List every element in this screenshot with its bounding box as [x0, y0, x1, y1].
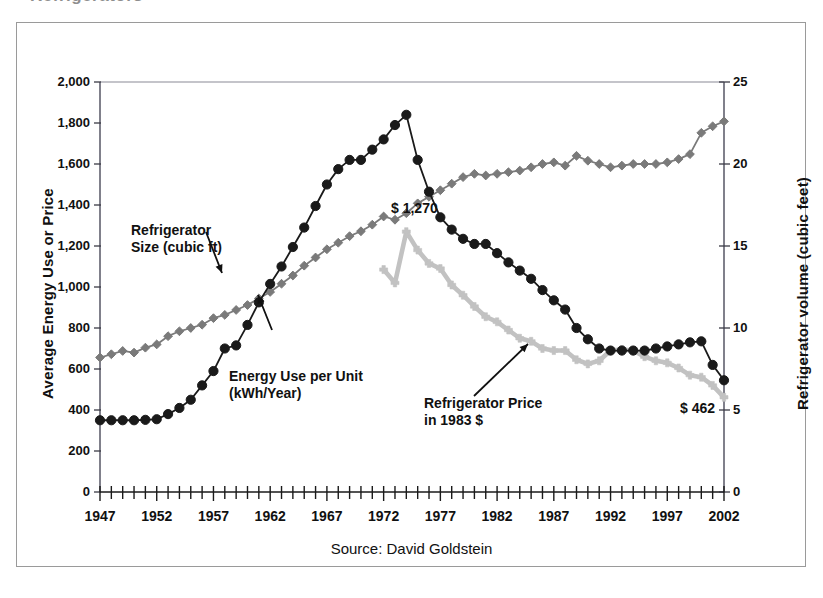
arrow-price — [474, 344, 528, 396]
data-point — [311, 201, 320, 210]
data-point — [243, 301, 252, 310]
data-point — [379, 135, 388, 144]
data-point — [708, 360, 717, 369]
y-axis-right-title: Refrigerator volume (cubic feet) — [794, 129, 811, 459]
chart-content — [94, 82, 730, 501]
data-point — [141, 343, 150, 352]
series-1 — [95, 110, 728, 425]
data-point — [583, 156, 592, 165]
data-point — [107, 350, 116, 359]
chart-page: Refrigerators Average Energy Use or Pric… — [0, 0, 823, 598]
data-point — [209, 366, 218, 375]
annotation-price-line1: Refrigerator Price — [424, 395, 542, 411]
data-point — [198, 320, 207, 329]
data-point — [470, 169, 479, 178]
data-point — [118, 416, 127, 425]
x-tick-label: 1982 — [467, 508, 527, 524]
data-point — [492, 249, 501, 258]
data-point — [209, 314, 218, 323]
x-tick-label: 1967 — [297, 508, 357, 524]
data-point — [629, 346, 638, 355]
data-point — [629, 160, 638, 169]
y-tick-label-left: 1,600 — [30, 156, 90, 171]
data-point — [663, 158, 672, 167]
data-point — [686, 150, 695, 159]
y-tick-label-left: 800 — [30, 320, 90, 335]
annotation-price-line2: in 1983 $ — [424, 412, 483, 428]
y-tick-label-right: 15 — [733, 238, 773, 253]
data-point — [606, 346, 615, 355]
data-point — [561, 305, 570, 314]
data-point — [334, 238, 343, 247]
data-point — [447, 225, 456, 234]
y-tick-label-left: 2,000 — [30, 74, 90, 89]
series-line — [384, 232, 724, 398]
data-point — [651, 344, 660, 353]
x-tick-label: 1952 — [127, 508, 187, 524]
data-point — [527, 274, 536, 283]
y-tick-label-right: 20 — [733, 156, 773, 171]
data-point — [493, 169, 502, 178]
data-point — [719, 376, 728, 385]
data-point — [481, 239, 490, 248]
data-point — [595, 160, 604, 169]
annotation-refrigerator-size: Refrigerator Size (cubic ft) — [131, 222, 222, 256]
y-tick-label-right: 25 — [733, 74, 773, 89]
data-point — [515, 166, 524, 175]
annotation-energy-line1: Energy Use per Unit — [229, 368, 363, 384]
data-point — [368, 145, 377, 154]
x-tick-label: 1987 — [524, 508, 584, 524]
data-point — [232, 306, 241, 315]
data-point — [458, 234, 467, 243]
data-point — [504, 258, 513, 267]
data-point — [232, 341, 241, 350]
data-point — [527, 163, 536, 172]
data-point — [198, 381, 207, 390]
value-label-price-end: $ 462 — [680, 400, 715, 416]
data-point — [390, 120, 399, 129]
annotation-energy-line2: (kWh/Year) — [229, 385, 301, 401]
y-tick-label-left: 200 — [30, 443, 90, 458]
data-point — [424, 187, 433, 196]
y-tick-label-left: 1,800 — [30, 115, 90, 130]
data-point — [266, 279, 275, 288]
data-point — [720, 117, 729, 126]
data-point — [470, 239, 479, 248]
x-tick-label: 2002 — [694, 508, 754, 524]
data-point — [515, 266, 524, 275]
data-point — [674, 340, 683, 349]
data-point — [118, 347, 127, 356]
annotation-size-line2: Size (cubic ft) — [131, 239, 222, 255]
y-tick-label-left: 600 — [30, 361, 90, 376]
data-point — [606, 163, 615, 172]
data-point — [572, 323, 581, 332]
data-point — [163, 410, 172, 419]
data-point — [538, 160, 547, 169]
data-point — [697, 128, 706, 137]
data-point — [402, 110, 411, 119]
data-point — [175, 403, 184, 412]
data-point — [674, 155, 683, 164]
x-tick-label: 1997 — [637, 508, 697, 524]
x-tick-label: 1972 — [354, 508, 414, 524]
value-label-price-peak: $ 1,270 — [391, 200, 438, 216]
data-point — [220, 344, 229, 353]
data-point — [334, 165, 343, 174]
data-point — [152, 415, 161, 424]
data-point — [129, 416, 138, 425]
y-tick-label-left: 1,000 — [30, 279, 90, 294]
data-point — [356, 155, 365, 164]
data-point — [583, 335, 592, 344]
data-point — [708, 122, 717, 131]
data-point — [617, 346, 626, 355]
data-point — [391, 215, 400, 224]
data-point — [345, 232, 354, 241]
source-note: Source: David Goldstein — [0, 540, 823, 557]
data-point — [640, 160, 649, 169]
x-tick-label: 1962 — [240, 508, 300, 524]
data-point — [685, 338, 694, 347]
x-tick-label: 1947 — [70, 508, 130, 524]
data-point — [640, 346, 649, 355]
arrow-size-head — [216, 264, 223, 273]
data-point — [107, 416, 116, 425]
